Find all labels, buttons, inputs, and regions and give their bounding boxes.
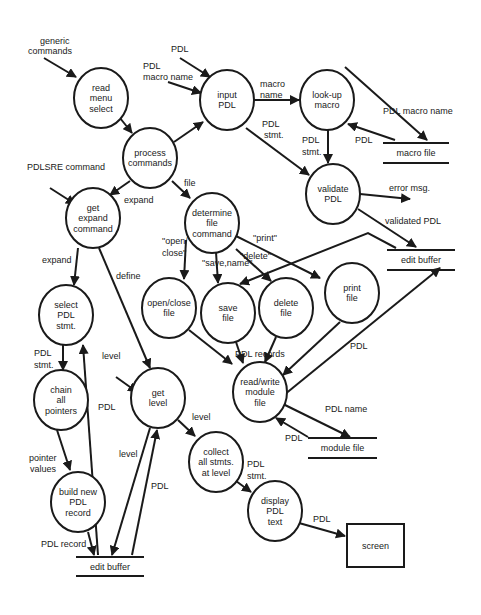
process-chain-pointers: chainallpointers bbox=[34, 370, 88, 430]
flow-label: stmt. bbox=[264, 130, 284, 140]
flow-label: level bbox=[119, 449, 138, 459]
store-edit-buffer-bottom: edit buffer bbox=[76, 557, 144, 576]
flow-arrow bbox=[299, 523, 345, 536]
flow-arrow bbox=[110, 181, 130, 195]
flow-label: pointer bbox=[29, 453, 57, 463]
process-build-record: build newPDLrecord bbox=[51, 472, 105, 532]
flow-label: error msg. bbox=[389, 183, 430, 193]
process-label: PDL bbox=[266, 506, 284, 516]
process-label: text bbox=[268, 517, 283, 527]
process-print-file: printfile bbox=[325, 263, 379, 323]
flow-label: file bbox=[184, 178, 196, 188]
flow-label: generic bbox=[40, 36, 70, 46]
process-validate-pdl: validatePDL bbox=[306, 164, 360, 224]
flow-label: stmt. bbox=[302, 147, 322, 157]
flow-label: PDL bbox=[171, 44, 189, 54]
process-label: build new bbox=[59, 487, 98, 497]
flow-label: PDL name bbox=[325, 404, 367, 414]
process-save-file: savefile bbox=[201, 283, 255, 343]
process-lookup-macro: look-upmacro bbox=[300, 70, 354, 130]
process-label: file bbox=[254, 398, 266, 408]
flow-arrow bbox=[44, 58, 76, 77]
process-label: all stmts. bbox=[198, 457, 234, 467]
flow-label: PDL bbox=[350, 341, 368, 351]
terminator-label: screen bbox=[362, 541, 389, 551]
store-label: module file bbox=[321, 443, 365, 453]
process-label: read/write bbox=[240, 377, 280, 387]
flow-label: PDL bbox=[355, 135, 373, 145]
process-label: select bbox=[89, 104, 113, 114]
flow-label: PDL bbox=[262, 119, 280, 129]
store-label: edit buffer bbox=[90, 562, 130, 572]
process-label: get bbox=[87, 203, 100, 213]
flow-label: level bbox=[102, 351, 121, 361]
process-label: delete bbox=[274, 298, 299, 308]
process-label: print bbox=[343, 283, 361, 293]
flow-label: PDL bbox=[302, 135, 320, 145]
flow-label: PDL bbox=[143, 61, 161, 71]
process-label: process bbox=[134, 148, 166, 158]
process-read-write: read/writemodulefile bbox=[233, 362, 287, 422]
process-determine-file: determinefilecommand bbox=[185, 193, 239, 253]
terminators: screen bbox=[347, 524, 404, 567]
flow-label: PDL records bbox=[235, 349, 285, 359]
data-flow-diagram: readmenuselectinputPDLlook-upmacroproces… bbox=[0, 0, 481, 615]
process-label: commands bbox=[128, 158, 173, 168]
store-label: edit buffer bbox=[401, 255, 441, 265]
flow-label: PDL bbox=[247, 459, 265, 469]
flow-arrow bbox=[168, 82, 201, 93]
flow-label: "save,name" bbox=[202, 258, 252, 268]
process-label: macro bbox=[314, 100, 339, 110]
flow-label: macro bbox=[260, 79, 285, 89]
diagram-canvas: readmenuselectinputPDLlook-upmacroproces… bbox=[0, 0, 481, 615]
process-label: PDL bbox=[324, 194, 342, 204]
flow-label: expand bbox=[42, 255, 72, 265]
process-label: menu bbox=[90, 93, 113, 103]
process-process-cmds: processcommands bbox=[123, 128, 177, 188]
process-label: command bbox=[73, 224, 113, 234]
process-label: read bbox=[92, 83, 110, 93]
process-label: expand bbox=[78, 213, 108, 223]
process-label: collect bbox=[203, 447, 229, 457]
process-label: pointers bbox=[45, 406, 78, 416]
process-label: validate bbox=[317, 184, 348, 194]
process-delete-file: deletefile bbox=[259, 278, 313, 338]
store-macro-file: macro file bbox=[383, 143, 449, 163]
flow-arrow bbox=[88, 532, 94, 555]
process-label: get bbox=[152, 388, 165, 398]
process-label: level bbox=[149, 398, 168, 408]
terminator-screen: screen bbox=[347, 524, 404, 567]
process-label: chain bbox=[50, 385, 72, 395]
process-label: all bbox=[56, 395, 65, 405]
process-label: file bbox=[222, 313, 234, 323]
process-select-pdl: selectPDLstmt. bbox=[39, 285, 93, 345]
flow-arrow bbox=[174, 122, 203, 142]
process-label: PDL bbox=[57, 310, 75, 320]
process-label: PDL bbox=[69, 497, 87, 507]
flow-label: PDL bbox=[313, 514, 331, 524]
flow-label: PDLSRE command bbox=[27, 162, 105, 172]
process-label: save bbox=[218, 303, 237, 313]
flow-label: PDL bbox=[98, 402, 116, 412]
process-label: module bbox=[245, 387, 275, 397]
flow-label: stmt. bbox=[247, 471, 267, 481]
process-label: file bbox=[163, 308, 175, 318]
process-display-text: displayPDLtext bbox=[248, 481, 302, 541]
process-read-menu: readmenuselect bbox=[74, 68, 128, 128]
flow-label: PDL bbox=[285, 433, 303, 443]
process-open-close: open/closefile bbox=[142, 278, 196, 338]
process-label: file bbox=[346, 293, 358, 303]
flow-label: commands bbox=[28, 46, 73, 56]
process-label: record bbox=[65, 508, 91, 518]
process-label: determine bbox=[192, 208, 232, 218]
process-label: command bbox=[192, 229, 232, 239]
flow-label: PDL bbox=[151, 481, 169, 491]
flow-arrow bbox=[178, 420, 195, 436]
flow-label: PDL record bbox=[41, 539, 86, 549]
process-input-pdl: inputPDL bbox=[200, 70, 254, 130]
flow-label: stmt. bbox=[34, 360, 54, 370]
process-label: display bbox=[261, 496, 290, 506]
flow-label: define bbox=[116, 271, 141, 281]
flow-label: PDL macro name bbox=[383, 106, 453, 116]
flow-label: PDL bbox=[34, 348, 52, 358]
